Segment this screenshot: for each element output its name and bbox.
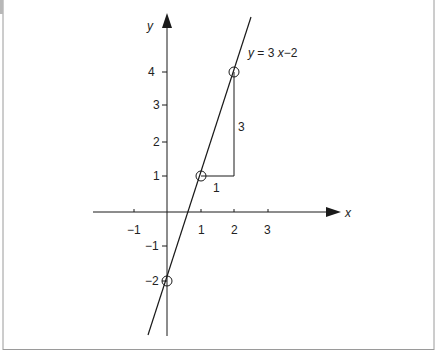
y-tick-label: −1 xyxy=(145,239,159,253)
y-tick-label: 1 xyxy=(153,169,160,183)
x-axis-label: x xyxy=(344,206,352,220)
rise-label: 3 xyxy=(238,120,245,134)
x-tick-label: 3 xyxy=(264,223,271,237)
x-axis-arrow-icon xyxy=(326,207,341,217)
frame-edge xyxy=(0,0,3,14)
y-ticks: 4 3 2 1 −1 −2 xyxy=(145,65,167,288)
eq-part2: −2 xyxy=(284,46,298,60)
y-axis-label: y xyxy=(146,19,154,33)
y-tick-label: −2 xyxy=(145,274,159,288)
run-label: 1 xyxy=(213,181,220,195)
eq-part1: = 3 xyxy=(254,46,278,60)
equation-label: y = 3 x−2 xyxy=(247,46,298,60)
y-tick-label: 4 xyxy=(148,65,155,79)
y-tick-label: 2 xyxy=(153,135,160,149)
gradient-triangle: 1 3 xyxy=(201,72,245,195)
x-axis: x xyxy=(93,206,352,220)
y-axis-arrow-icon xyxy=(162,13,172,28)
graph-canvas: y x −1 1 2 3 4 3 2 xyxy=(0,0,441,353)
x-tick-label: 1 xyxy=(198,223,205,237)
diagram-frame: y x −1 1 2 3 4 3 2 xyxy=(0,0,441,353)
x-tick-label: −1 xyxy=(127,223,141,237)
y-tick-label: 3 xyxy=(153,98,160,112)
x-tick-label: 2 xyxy=(231,223,238,237)
x-ticks: −1 1 2 3 xyxy=(127,209,271,237)
